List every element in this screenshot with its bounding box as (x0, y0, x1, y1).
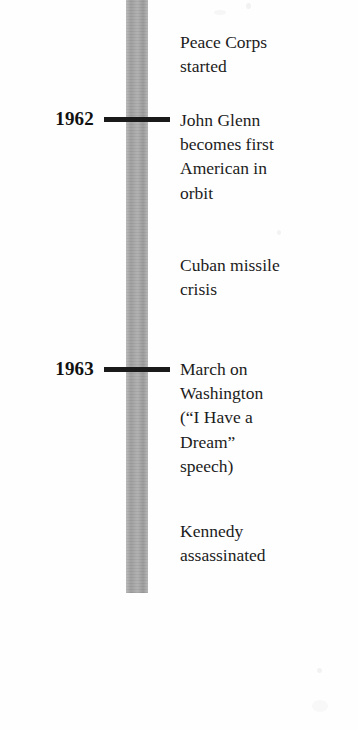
event-line: John Glenn (180, 108, 356, 132)
event-line: assassinated (180, 543, 356, 567)
event-line: speech) (180, 454, 356, 478)
event-line: American in (180, 156, 356, 180)
event-line: orbit (180, 181, 356, 205)
event-line: Kennedy (180, 519, 356, 543)
event-line: becomes first (180, 132, 356, 156)
event-line: Peace Corps (180, 30, 356, 54)
year-label-1963: 1963 (55, 358, 94, 380)
event-line: Washington (180, 381, 356, 405)
event-march-on-washington: March on Washington (“I Have a Dream” sp… (180, 357, 356, 478)
scan-artifact (312, 700, 328, 712)
year-label-1962: 1962 (55, 108, 94, 130)
event-line: started (180, 54, 356, 78)
event-peace-corps: Peace Corps started (180, 30, 356, 78)
timeline-tick-1963 (104, 367, 170, 372)
timeline-bar (126, 0, 148, 593)
event-cuban-missile-crisis: Cuban missile crisis (180, 253, 356, 301)
timeline-figure: 1962 1963 Peace Corps started John Glenn… (0, 0, 358, 730)
event-kennedy-assassinated: Kennedy assassinated (180, 519, 356, 567)
event-line: March on (180, 357, 356, 381)
scan-artifact (317, 668, 322, 673)
event-line: Dream” (180, 430, 356, 454)
event-line: crisis (180, 277, 356, 301)
scan-artifact (277, 230, 281, 235)
scan-artifact (246, 3, 251, 9)
event-john-glenn: John Glenn becomes first American in orb… (180, 108, 356, 205)
event-line: Cuban missile (180, 253, 356, 277)
event-line: (“I Have a (180, 405, 356, 429)
timeline-tick-1962 (104, 117, 170, 122)
scan-artifact (214, 10, 226, 15)
